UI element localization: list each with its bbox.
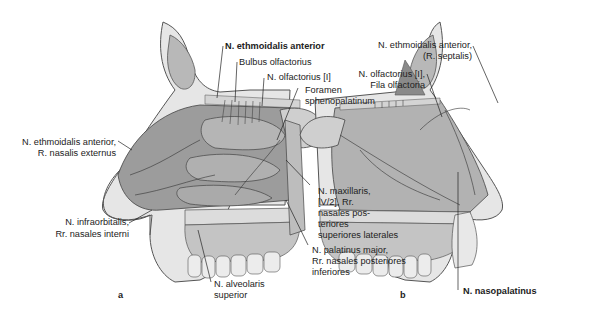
label-ethm-ext-2: R. nasalis externus — [0, 148, 116, 159]
label-n-maxillaris-1: N. maxillaris, — [318, 186, 371, 197]
label-n-maxillaris-5: superiores laterales — [318, 230, 398, 241]
label-foramen-sphenopalatinum-2: sphenopalatinum — [305, 96, 375, 107]
label-n-palatinus-major-3: inferiores — [312, 267, 350, 278]
label-n-alveolaris-1: N. alveolaris — [214, 279, 265, 290]
label-bulbus-olfactorius: Bulbus olfactorius — [239, 57, 312, 68]
label-n-maxillaris-2: [V/2], Rr. — [318, 197, 354, 208]
label-n-ethmoidalis-anterior: N. ethmoidalis anterior — [225, 41, 325, 52]
label-n-alveolaris-2: superior — [214, 290, 247, 301]
label-ethm-ext-1: N. ethmoidalis anterior, — [0, 137, 116, 148]
label-n-maxillaris-3: nasales pos- — [318, 208, 370, 219]
label-n-nasopalatinus: N. nasopalatinus — [463, 286, 537, 297]
label-olf-fila-2: Fila olfactoria — [320, 80, 425, 91]
label-ethm-septalis-2: (R. septalis) — [360, 51, 472, 62]
label-n-palatinus-major-2: Rr. nasales posteriores — [312, 256, 406, 267]
label-olf-fila-1: N. olfactorius [I], — [320, 69, 425, 80]
panel-label-b: b — [400, 290, 406, 301]
panel-label-a: a — [118, 290, 123, 301]
label-n-palatinus-major-1: N. palatinus major, — [312, 245, 388, 256]
label-ethm-septalis-1: N. ethmoidalis anterior, — [360, 40, 472, 51]
label-n-maxillaris-4: teriores — [318, 219, 349, 230]
label-infraorbitalis-2: Rr. nasales interni — [0, 229, 129, 240]
label-infraorbitalis-1: N. infraorbitalis, — [0, 217, 129, 228]
